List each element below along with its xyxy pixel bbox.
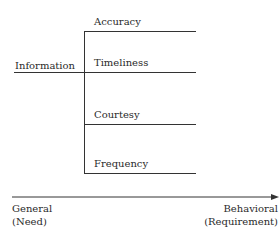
axis-left-label-line2: (Need) [12, 216, 47, 228]
axis-right-label-line1: Behavioral [224, 203, 278, 215]
axis-right-label-line2: (Requirement) [204, 216, 278, 228]
axis-left-label-line1: General [12, 203, 52, 215]
continuum-arrow [0, 0, 280, 233]
